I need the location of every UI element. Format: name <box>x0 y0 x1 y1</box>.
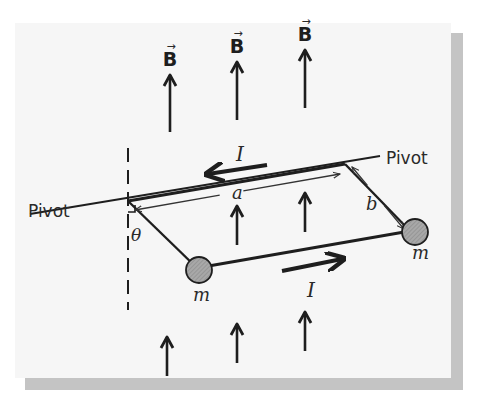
mass-left <box>186 257 212 283</box>
pivot-left-label: Pivot <box>28 201 70 221</box>
side-b-label: b <box>366 193 378 214</box>
angle-theta-label: θ <box>131 225 141 245</box>
current-label-bottom: I <box>306 278 316 302</box>
vector-arrow-icon: → <box>301 15 310 28</box>
side-a-label: a <box>232 182 243 203</box>
pivot-right-label: Pivot <box>386 148 428 168</box>
vector-arrow-icon: → <box>233 27 242 40</box>
mass-left-label: m <box>193 284 210 305</box>
current-label-top: I <box>235 142 245 166</box>
magnetic-pendulum-diagram: B→B→B→ Pivot Pivot I I a b θ m m <box>0 0 488 419</box>
vector-arrow-icon: → <box>166 40 175 53</box>
mass-right-label: m <box>412 242 429 263</box>
